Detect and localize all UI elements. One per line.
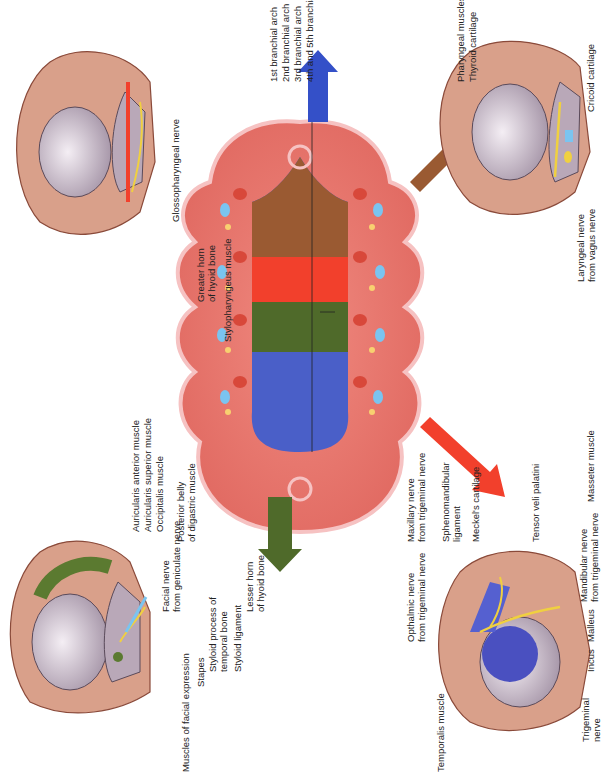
label-3rd-arch: 3rd branchial arch bbox=[292, 6, 303, 82]
label-greater-horn-2: of hyoid bone bbox=[206, 245, 217, 302]
label-auricularis-superior: Auricularis superior muscle bbox=[142, 418, 153, 532]
label-stylopharyngeus: Stylopharyngeus muscle bbox=[222, 239, 233, 343]
label-facial-expression: Muscles of facial expression bbox=[180, 653, 191, 772]
label-trigeminal-1: Trigeminal bbox=[580, 698, 591, 742]
label-occipitalis: Occipitalis muscle bbox=[154, 456, 165, 532]
label-tensor-veli-palatini: Tensor veli palatini bbox=[530, 464, 541, 542]
label-stapes: Stapes bbox=[195, 657, 206, 687]
label-lesser-horn-1: Lesser horn bbox=[244, 562, 255, 612]
label-incus: Incus bbox=[585, 649, 596, 672]
label-maxillary-1: Maxillary nerve bbox=[405, 478, 416, 542]
label-glossopharyngeal: Glossopharyngeal nerve bbox=[170, 119, 181, 222]
first-arch-head bbox=[439, 551, 590, 730]
second-arch-head bbox=[10, 541, 150, 713]
label-posterior-belly-2: of digastric muscle bbox=[186, 463, 197, 542]
label-laryngeal-2: from vagus nerve bbox=[586, 209, 597, 282]
third-arch-head bbox=[17, 52, 155, 235]
label-mandibular-1: Mandibular nerve bbox=[578, 529, 589, 602]
label-masseter: Masseter muscle bbox=[585, 430, 596, 502]
diagram-artwork bbox=[0, 0, 603, 782]
label-trigeminal-2: nerve bbox=[591, 718, 602, 742]
label-laryngeal-1: Laryngeal nerve bbox=[575, 214, 586, 282]
label-1st-arch: 1st branchial arch bbox=[268, 7, 279, 82]
label-ophthalmic-2: from trigeminal nerve bbox=[416, 553, 427, 642]
branchial-arch-figure: 1st branchial arch 2nd branchial arch 3r… bbox=[0, 0, 603, 782]
label-ophthalmic-1: Opthalmic nerve bbox=[405, 573, 416, 642]
label-styloid-ligament: Styloid ligament bbox=[232, 605, 243, 672]
label-thyroid-cartilage: Thyroid cartilage bbox=[467, 12, 478, 82]
label-pharyngeal-muscles: Pharyngeal muscles bbox=[455, 0, 466, 82]
label-sphenomandibular-2: ligament bbox=[451, 506, 462, 542]
label-posterior-belly-1: Posterior belly bbox=[175, 482, 186, 542]
label-2nd-arch: 2nd branchial arch bbox=[280, 4, 291, 82]
label-auricularis-anterior: Auricularis anterior muscle bbox=[130, 420, 141, 532]
label-sphenomandibular-1: Sphenomandibular bbox=[440, 462, 451, 542]
label-4th-5th-arches: 4th and 5th branchial arches bbox=[304, 0, 315, 82]
label-styloid-process-2: temporal bone bbox=[218, 611, 229, 672]
label-maxillary-2: from trigeminal nerve bbox=[416, 453, 427, 542]
label-greater-horn-1: Greater horn bbox=[195, 248, 206, 302]
label-mandibular-2: from trigeminal nerve bbox=[589, 513, 600, 602]
label-styloid-process-1: Styloid process of bbox=[207, 597, 218, 672]
label-temporalis: Temporalis muscle bbox=[435, 693, 446, 772]
label-cricoid-cartilage: Cricoid cartilage bbox=[585, 44, 596, 112]
label-malleus: Malleus bbox=[585, 609, 596, 642]
label-meckel: Meckel's cartilage bbox=[470, 467, 481, 542]
label-facial-nerve-1: Facial nerve bbox=[160, 560, 171, 612]
label-lesser-horn-2: of hyoid bone bbox=[255, 555, 266, 612]
